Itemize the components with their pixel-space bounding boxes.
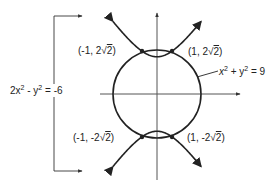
point-label-pos1-pos: (1, 2√2) xyxy=(188,46,222,57)
intersection-point xyxy=(140,49,144,53)
graph-figure: (-1, 2√2) (1, 2√2) (-1, -2√2) (1, -2√2) … xyxy=(0,0,275,183)
point-label-neg1-neg: (-1, -2√2) xyxy=(73,132,114,143)
hyperbola-equation-label: 2x2 - y2 = -6 xyxy=(10,84,63,96)
point-label-neg1-pos: (-1, 2√2) xyxy=(78,45,116,56)
intersection-point xyxy=(170,135,174,139)
intersection-point xyxy=(140,135,144,139)
circle-label-leader xyxy=(197,71,218,77)
intersection-point xyxy=(170,49,174,53)
circle-equation-label: x2 + y2 = 9 xyxy=(218,65,266,77)
point-label-pos1-neg: (1, -2√2) xyxy=(187,132,225,143)
